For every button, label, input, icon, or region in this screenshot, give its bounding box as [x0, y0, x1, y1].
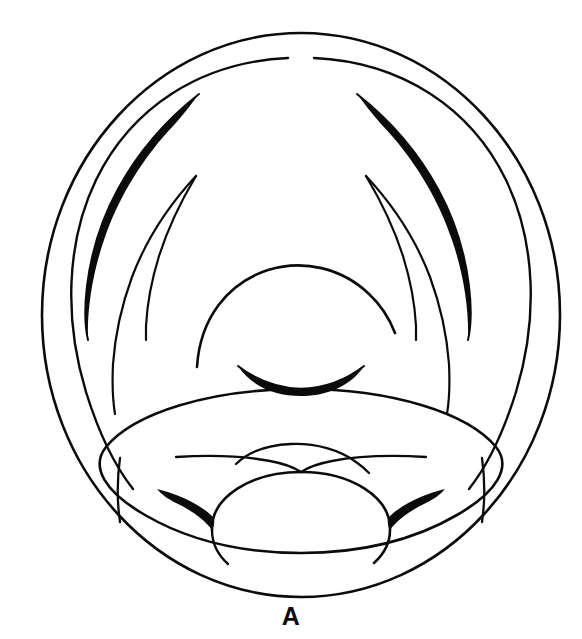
anatomical-line-drawing [0, 0, 582, 639]
figure-container: A [0, 0, 582, 639]
figure-panel-label: A [0, 600, 582, 632]
